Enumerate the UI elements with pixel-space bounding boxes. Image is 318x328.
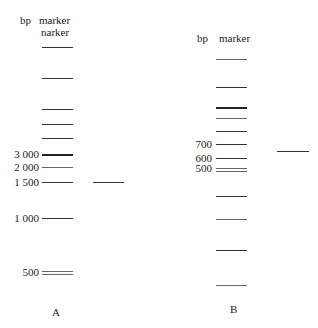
panel-b-bp-header: bp: [197, 32, 208, 44]
marker-band: [216, 87, 247, 88]
panel-a-marker-header: marker: [39, 14, 70, 26]
marker-band: [216, 118, 247, 119]
marker-band: [216, 59, 247, 60]
marker-band: [42, 109, 73, 110]
marker-band: [216, 131, 247, 132]
marker-band: [42, 124, 73, 125]
marker-band: [42, 218, 73, 219]
marker-band: [216, 250, 247, 251]
marker-band: [216, 196, 247, 197]
band-size-label: 1 000: [14, 212, 39, 224]
marker-band: [42, 154, 73, 156]
band-size-label: 3 000: [14, 148, 39, 160]
panel-a-label: A: [52, 306, 60, 318]
panel-b-label: B: [230, 303, 237, 315]
marker-band: [42, 167, 73, 168]
marker-band: [216, 219, 247, 220]
marker-band: [216, 158, 247, 159]
marker-band: [216, 171, 247, 172]
band-size-label: 1 500: [14, 176, 39, 188]
marker-band: [42, 271, 73, 272]
marker-band: [42, 274, 73, 275]
panel-b-marker-header: marker: [219, 32, 250, 44]
marker-band: [42, 47, 73, 48]
band-size-label: 700: [196, 138, 213, 150]
marker-band: [42, 78, 73, 79]
band-size-label: 2 000: [14, 161, 39, 173]
panel-a-bp-header: bp: [20, 14, 31, 26]
marker-band: [216, 285, 247, 286]
marker-band: [42, 138, 73, 139]
marker-band: [216, 144, 247, 145]
panel-a-marker-header-2: narker: [41, 26, 69, 38]
band-size-label: 500: [196, 162, 213, 174]
panel-b-sample-band: [277, 151, 309, 152]
band-size-label: 500: [23, 266, 40, 278]
marker-band: [216, 107, 247, 109]
panel-a-sample-band: [93, 182, 124, 183]
marker-band: [42, 182, 73, 183]
marker-band: [216, 168, 247, 169]
